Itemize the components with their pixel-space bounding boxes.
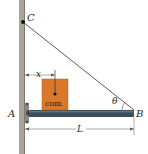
theta-arc bbox=[122, 103, 125, 111]
label-a: A bbox=[7, 108, 15, 119]
label-l: L bbox=[76, 124, 83, 134]
static-equilibrium-diagram: C A B x L θ com bbox=[0, 0, 148, 154]
label-x: x bbox=[36, 69, 41, 79]
label-c: C bbox=[27, 12, 35, 23]
label-com: com bbox=[45, 99, 62, 108]
point-c bbox=[21, 20, 25, 24]
beam bbox=[29, 110, 134, 117]
label-b: B bbox=[135, 108, 143, 119]
label-theta: θ bbox=[112, 96, 118, 106]
